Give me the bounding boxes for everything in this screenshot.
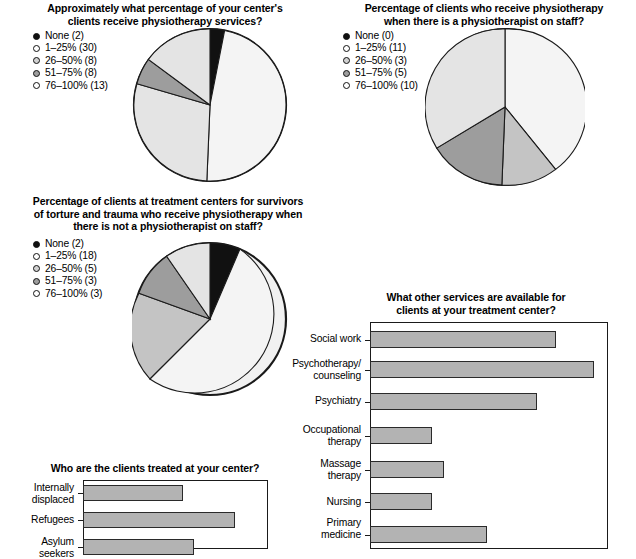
bar-label-occupational-therapy: Occupational therapy	[276, 424, 361, 447]
legend-marker-open-circle-icon	[343, 45, 350, 52]
pie-with-physiotherapist-title-line1: Percentage of clients who receive physio…	[336, 2, 632, 15]
bar-social-work	[370, 331, 556, 348]
legend-label: 1–25% (18)	[45, 250, 97, 262]
bar-internally-displaced	[83, 485, 183, 501]
bar-nursing	[370, 493, 432, 510]
legend-marker-mid-gray-circle-icon	[343, 70, 350, 77]
bar-primary-medicine	[370, 526, 487, 543]
pie-all-centers-graphic	[132, 27, 288, 183]
pie-all-centers-title: Approximately what percentage of your ce…	[30, 2, 300, 27]
bar-psychiatry	[370, 393, 537, 410]
legend-item-26-50: 26–50% (5)	[33, 263, 102, 275]
legend-marker-mid-gray-circle-icon	[33, 278, 40, 285]
chart-panel-bar-clients-treated: Who are the clients treated at your cent…	[0, 462, 276, 549]
legend-label: 76–100% (10)	[355, 80, 418, 92]
pie-with-physiotherapist-svg	[425, 27, 585, 187]
legend-item-76-100: 76–100% (13)	[33, 80, 108, 92]
pie-without-physiotherapist-title-line1: Percentage of clients at treatment cente…	[18, 195, 318, 208]
chart-panel-bar-other-services: What other services are available for cl…	[276, 290, 636, 549]
bar-label-nursing: Nursing	[276, 496, 361, 508]
legend-marker-filled-circle-icon	[33, 33, 40, 40]
legend-label: 1–25% (11)	[355, 42, 406, 54]
legend-marker-filled-circle-icon	[343, 33, 350, 40]
pie-all-centers-title-line2: clients receive physiotherapy services?	[30, 15, 300, 28]
pie-without-physiotherapist-svg	[132, 241, 288, 397]
legend-label: 26–50% (8)	[45, 55, 97, 67]
bar-label-primary-medicine: Primary medicine	[276, 517, 361, 540]
legend-item-none: None (2)	[33, 30, 108, 42]
pie-with-physiotherapist-title: Percentage of clients who receive physio…	[336, 2, 632, 27]
legend-label: 1–25% (30)	[45, 42, 97, 54]
pie-without-physiotherapist-graphic	[132, 241, 288, 397]
legend-label: 26–50% (3)	[355, 55, 407, 67]
legend-item-1-25: 1–25% (30)	[33, 42, 108, 54]
legend-item-1-25: 1–25% (11)	[343, 42, 418, 54]
pie-without-physiotherapist-title-line3: there is not a physiotherapist on staff?	[18, 220, 318, 233]
legend-marker-mid-gray-circle-icon	[33, 70, 40, 77]
legend-label: None (2)	[45, 30, 84, 42]
legend-label: None (2)	[45, 238, 84, 250]
legend-marker-open-circle-icon	[33, 290, 40, 297]
legend-marker-light-gray-circle-icon	[33, 265, 40, 272]
bar-massage-therapy	[370, 461, 444, 478]
legend-label: None (0)	[355, 30, 394, 42]
pie-without-physiotherapist-title-line2: of torture and trauma who receive physio…	[18, 208, 318, 221]
bar-other-services-title: What other services are available for cl…	[376, 291, 576, 316]
pie-all-centers-title-line1: Approximately what percentage of your ce…	[30, 2, 300, 15]
chart-panel-pie-all-centers: Approximately what percentage of your ce…	[0, 0, 320, 190]
legend-marker-light-gray-circle-icon	[33, 57, 40, 64]
pie-all-centers-svg	[132, 27, 288, 183]
legend-marker-open-circle-icon	[33, 45, 40, 52]
bar-label-refugees: Refugees	[0, 514, 74, 526]
legend-item-none: None (0)	[343, 30, 418, 42]
pie-with-physiotherapist-legend: None (0) 1–25% (11) 26–50% (3) 51–75% (5…	[343, 30, 418, 92]
legend-item-1-25: 1–25% (18)	[33, 250, 102, 262]
legend-item-none: None (2)	[33, 238, 102, 250]
pie-all-centers-legend: None (2) 1–25% (30) 26–50% (8) 51–75% (8…	[33, 30, 108, 92]
legend-item-26-50: 26–50% (8)	[33, 55, 108, 67]
legend-label: 51–75% (5)	[355, 67, 407, 79]
legend-item-76-100: 76–100% (10)	[343, 80, 418, 92]
bar-occupational-therapy	[370, 427, 432, 444]
bar-psychotherapy-counseling	[370, 361, 594, 378]
pie-with-physiotherapist-graphic	[425, 27, 585, 187]
legend-label: 26–50% (5)	[45, 263, 97, 275]
legend-item-26-50: 26–50% (3)	[343, 55, 418, 67]
pie-with-physiotherapist-title-line2: when there is a physiotherapist on staff…	[336, 15, 632, 28]
legend-marker-filled-circle-icon	[33, 241, 40, 248]
legend-item-51-75: 51–75% (5)	[343, 67, 418, 79]
bar-label-massage-therapy: Massage therapy	[276, 458, 361, 481]
legend-label: 76–100% (13)	[45, 80, 108, 92]
legend-item-51-75: 51–75% (8)	[33, 67, 108, 79]
bar-other-services-title-line2: clients at your treatment center?	[376, 304, 576, 317]
legend-marker-light-gray-circle-icon	[343, 57, 350, 64]
bar-label-social-work: Social work	[276, 333, 361, 345]
legend-marker-open-circle-icon	[33, 82, 40, 89]
bar-asylum-seekers	[83, 539, 194, 555]
legend-item-76-100: 76–100% (3)	[33, 288, 102, 300]
bar-label-psychotherapy-counseling: Psychotherapy/ counseling	[276, 358, 361, 381]
bar-label-asylum-seekers: Asylum seekers	[0, 536, 74, 559]
legend-label: 76–100% (3)	[45, 288, 102, 300]
bar-label-internally-displaced: Internally displaced	[0, 482, 74, 505]
legend-marker-open-circle-icon	[33, 253, 40, 260]
pie-without-physiotherapist-legend: None (2) 1–25% (18) 26–50% (5) 51–75% (3…	[33, 238, 102, 300]
legend-item-51-75: 51–75% (3)	[33, 275, 102, 287]
bar-other-services-title-line1: What other services are available for	[376, 291, 576, 304]
pie-without-physiotherapist-title: Percentage of clients at treatment cente…	[18, 195, 318, 233]
bar-label-psychiatry: Psychiatry	[276, 395, 361, 407]
bar-clients-treated-title: Who are the clients treated at your cent…	[40, 462, 270, 475]
legend-label: 51–75% (8)	[45, 67, 97, 79]
chart-panel-pie-with-physiotherapist: Percentage of clients who receive physio…	[320, 0, 636, 190]
bar-refugees	[83, 512, 235, 528]
legend-marker-open-circle-icon	[343, 82, 350, 89]
legend-label: 51–75% (3)	[45, 275, 97, 287]
